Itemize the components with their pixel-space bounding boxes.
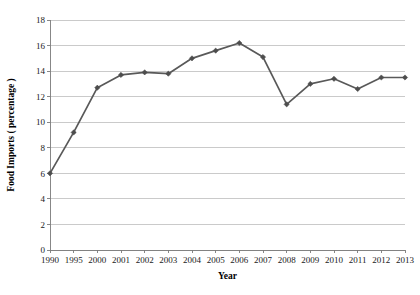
x-tick-label: 2002 xyxy=(136,255,154,265)
x-tick-label: 2000 xyxy=(88,255,107,265)
x-tick-label: 2001 xyxy=(112,255,130,265)
line-chart: 024681012141618 199019952000200120022003… xyxy=(0,0,420,295)
y-tick-label: 14 xyxy=(36,66,46,76)
x-tick-label: 2006 xyxy=(230,255,249,265)
x-tick-label: 2013 xyxy=(396,255,415,265)
x-axis-title: Year xyxy=(218,271,238,281)
x-tick-label: 2005 xyxy=(207,255,226,265)
x-tick-label: 2011 xyxy=(349,255,367,265)
x-tick-label: 2008 xyxy=(278,255,297,265)
x-tick-label: 2009 xyxy=(301,255,320,265)
chart-container: 024681012141618 199019952000200120022003… xyxy=(0,0,420,295)
x-tick-label: 2003 xyxy=(159,255,178,265)
x-tick-label: 2007 xyxy=(254,255,273,265)
y-tick-label: 12 xyxy=(36,92,45,102)
y-tick-label: 10 xyxy=(36,117,46,127)
y-tick-label: 16 xyxy=(36,41,46,51)
x-tick-label: 2012 xyxy=(372,255,390,265)
y-tick-label: 6 xyxy=(41,169,46,179)
x-tick-label: 2004 xyxy=(183,255,202,265)
y-axis-title: Food Imports ( percentage ) xyxy=(6,78,17,191)
y-tick-label: 4 xyxy=(41,194,46,204)
y-tick-label: 2 xyxy=(41,220,46,230)
x-tick-label: 1990 xyxy=(41,255,60,265)
x-tick-label: 1995 xyxy=(65,255,84,265)
y-tick-label: 8 xyxy=(41,143,46,153)
x-tick-label: 2010 xyxy=(325,255,344,265)
y-tick-label: 18 xyxy=(36,15,46,25)
